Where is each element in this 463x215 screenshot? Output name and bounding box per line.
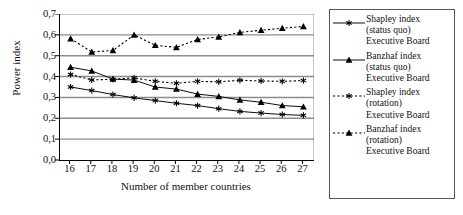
series-2 (68, 71, 306, 86)
legend: Shapley index (status quo) Executive Boa… (329, 9, 455, 199)
series-1 (67, 64, 307, 110)
y-tick-label: 0,4 (30, 72, 56, 82)
y-axis-ticks (55, 14, 60, 162)
x-axis-title: Number of member countries (59, 180, 313, 192)
y-tick-label: 0,1 (30, 134, 56, 144)
plot-svg (60, 14, 314, 160)
y-tick-label: 0,7 (30, 9, 56, 19)
series-0 (68, 84, 306, 119)
legend-star-marker-icon (332, 15, 366, 27)
legend-triangle-marker-icon (332, 52, 366, 64)
y-tick-label: 0,2 (30, 113, 56, 123)
y-tick-label: 0,6 (30, 30, 56, 40)
y-tick-label: 0,5 (30, 51, 56, 61)
x-axis-tick-labels: 161718192021222324252627 (59, 163, 313, 179)
y-tick-label: 0,3 (30, 92, 56, 102)
legend-star-marker-icon (332, 88, 366, 100)
y-axis-tick-labels: 0,00,10,20,30,40,50,60,7 (28, 0, 56, 215)
legend-item[interactable]: Banzhaf index (status quo) Executive Boa… (332, 51, 452, 85)
legend-item-label: Shapley index (rotation) Executive Board (366, 87, 430, 121)
legend-item[interactable]: Shapley index (rotation) Executive Board (332, 87, 452, 121)
legend-item[interactable]: Banzhaf index (rotation) Executive Board (332, 124, 452, 158)
series-3 (67, 23, 307, 55)
legend-triangle-marker-icon (332, 125, 366, 137)
legend-item-label: Banzhaf index (rotation) Executive Board (366, 124, 430, 158)
x-axis-ticks (59, 160, 315, 165)
legend-item-label: Banzhaf index (status quo) Executive Boa… (366, 51, 430, 85)
legend-item[interactable]: Shapley index (status quo) Executive Boa… (332, 14, 452, 48)
legend-item-label: Shapley index (status quo) Executive Boa… (366, 14, 430, 48)
y-tick-label: 0,0 (30, 155, 56, 165)
y-axis-title: Power index (10, 18, 26, 118)
plot-area (59, 14, 314, 161)
chart-figure: Power index 0,00,10,20,30,40,50,60,7 161… (0, 0, 463, 215)
